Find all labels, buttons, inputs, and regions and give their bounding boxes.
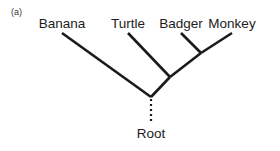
- taxon-label-monkey: Monkey: [208, 16, 255, 32]
- phylogenetic-tree-figure: (a) BananaTurtleBadgerMonkey Root: [0, 0, 280, 151]
- tree-branch: [201, 33, 232, 53]
- branch-group: [62, 33, 232, 97]
- root-label: Root: [137, 126, 166, 142]
- taxon-label-badger: Badger: [159, 16, 203, 32]
- tree-branch: [151, 77, 170, 97]
- tree-branch: [181, 33, 201, 53]
- tree-branch: [128, 33, 170, 77]
- taxon-label-banana: Banana: [39, 16, 86, 32]
- taxon-label-turtle: Turtle: [111, 16, 145, 32]
- tree-branch: [170, 53, 201, 77]
